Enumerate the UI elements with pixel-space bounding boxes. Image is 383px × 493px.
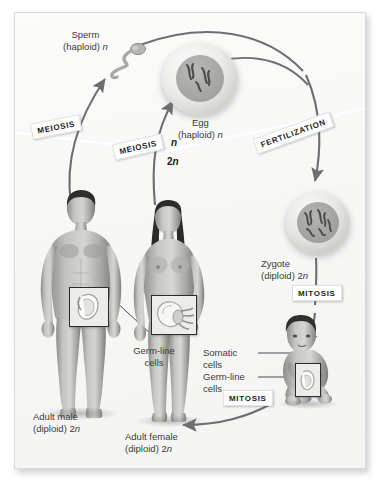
zygote-label-name: Zygote: [261, 258, 308, 270]
mitosis-zygote-label: MITOSIS: [292, 285, 342, 301]
sperm-label-name: Sperm: [63, 29, 108, 41]
egg-label-name: Egg: [178, 117, 223, 129]
adult-male-figure: [33, 189, 129, 421]
egg-nucleus: [176, 55, 224, 102]
testis-illustration: [70, 288, 108, 326]
ploidy-marker-diploid: 2n: [167, 156, 179, 167]
somatic-cells-label: Somatic cells: [203, 347, 237, 370]
egg-chromosomes: [176, 55, 224, 102]
male-germline-inset: [69, 287, 109, 327]
child-gonad-illustration: [296, 364, 320, 396]
adult-female-label-ploidy: (diploid) 2n: [125, 443, 178, 455]
female-ground-shadow: [135, 415, 205, 427]
adult-male-label-name: Adult male: [33, 411, 80, 423]
illustration-panel: Sperm (haploid) n Egg (haploid) n Zygote…: [14, 12, 366, 469]
egg-label-ploidy: (haploid) n: [178, 129, 223, 141]
zygote-label: Zygote (diploid) 2n: [261, 258, 308, 281]
germline-cells-adults-label: Germ-line cells: [121, 345, 187, 368]
adult-female-label-name: Adult female: [125, 431, 178, 443]
germline-adults-line1: Germ-line: [121, 345, 187, 357]
egg-cell: [162, 43, 238, 115]
mitosis-growth-label: MITOSIS: [223, 390, 273, 406]
adult-female-figure: [123, 199, 215, 429]
germline-child-line1: Germ-line: [203, 371, 245, 383]
somatic-cells-line1: Somatic: [203, 347, 237, 359]
ovary-illustration: [152, 296, 196, 334]
adult-male-label: Adult male (diploid) 2n: [33, 411, 80, 434]
egg-label: Egg (haploid) n: [178, 117, 223, 140]
life-cycle-figure: Sperm (haploid) n Egg (haploid) n Zygote…: [0, 0, 383, 493]
zygote-label-ploidy: (diploid) 2n: [261, 270, 308, 282]
sperm-label-ploidy: (haploid) n: [63, 41, 108, 53]
germline-adults-line2: cells: [121, 357, 187, 369]
sperm-label: Sperm (haploid) n: [63, 29, 108, 52]
somatic-cells-line2: cells: [203, 359, 237, 371]
zygote-cell: [286, 192, 350, 254]
child-germline-inset: [295, 363, 321, 397]
female-germline-inset: [151, 295, 197, 335]
zygote-chromosomes: [297, 202, 339, 243]
child-ground-shadow: [277, 399, 339, 409]
adult-female-label: Adult female (diploid) 2n: [125, 431, 178, 454]
child-figure: [271, 313, 345, 409]
zygote-nucleus: [297, 202, 339, 243]
adult-male-label-ploidy: (diploid) 2n: [33, 423, 80, 435]
ploidy-marker-haploid: n: [171, 137, 177, 148]
